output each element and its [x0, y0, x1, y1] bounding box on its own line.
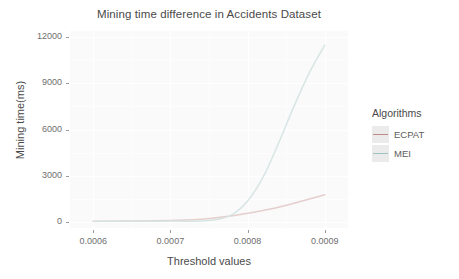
x-axis-tick-mark [93, 230, 94, 233]
y-axis-tick-mark [66, 37, 69, 38]
y-axis-title: Mining time(ms) [14, 40, 26, 200]
y-axis-tick-mark [66, 222, 69, 223]
series-line-ecpat [93, 195, 325, 221]
plot-panel [70, 31, 348, 228]
x-axis-tick-mark [248, 230, 249, 233]
legend-swatch-icon [372, 145, 389, 162]
y-axis-tick-mark [66, 130, 69, 131]
y-axis-tick-mark [66, 83, 69, 84]
x-axis-tick-mark [170, 230, 171, 233]
legend-swatch-icon [372, 126, 389, 143]
legend-item[interactable]: ECPAT [372, 126, 456, 143]
chart-title: Mining time difference in Accidents Data… [70, 8, 348, 20]
legend-item[interactable]: MEI [372, 145, 456, 162]
y-axis-tick-label: 0 [18, 216, 62, 226]
y-axis-tick-mark [66, 176, 69, 177]
legend: Algorithms ECPATMEI [372, 107, 456, 164]
legend-title: Algorithms [372, 107, 456, 119]
legend-item-label: ECPAT [394, 129, 424, 140]
data-series-layer [70, 31, 348, 228]
chart-container: Mining time difference in Accidents Data… [0, 0, 459, 279]
x-axis-tick-label: 0.0008 [221, 236, 275, 246]
x-axis-tick-label: 0.0009 [298, 236, 352, 246]
series-line-mei [93, 45, 325, 221]
legend-item-label: MEI [394, 148, 411, 159]
x-axis-title: Threshold values [70, 255, 348, 267]
legend-items: ECPATMEI [372, 126, 456, 162]
x-axis-tick-label: 0.0007 [143, 236, 197, 246]
x-axis-tick-mark [325, 230, 326, 233]
x-axis-tick-label: 0.0006 [66, 236, 120, 246]
